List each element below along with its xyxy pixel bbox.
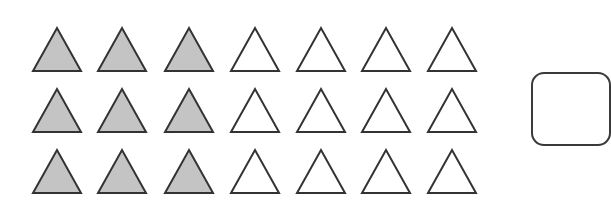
shaded-triangle bbox=[33, 150, 81, 193]
shaded-triangle bbox=[33, 28, 81, 71]
unshaded-triangle bbox=[297, 89, 345, 132]
shaded-triangle bbox=[165, 150, 213, 193]
shaded-triangle bbox=[98, 28, 146, 71]
unshaded-triangle bbox=[231, 150, 279, 193]
unshaded-triangle bbox=[428, 28, 476, 71]
unshaded-triangle bbox=[428, 150, 476, 193]
unshaded-triangle bbox=[362, 150, 410, 193]
shaded-triangle bbox=[165, 28, 213, 71]
answer-box[interactable] bbox=[531, 72, 611, 146]
unshaded-triangle bbox=[231, 89, 279, 132]
unshaded-triangle bbox=[362, 28, 410, 71]
shaded-triangle bbox=[33, 89, 81, 132]
shaded-triangle bbox=[165, 89, 213, 132]
unshaded-triangle bbox=[428, 89, 476, 132]
unshaded-triangle bbox=[297, 150, 345, 193]
unshaded-triangle bbox=[362, 89, 410, 132]
unshaded-triangle bbox=[297, 28, 345, 71]
unshaded-triangle bbox=[231, 28, 279, 71]
shaded-triangle bbox=[98, 89, 146, 132]
shaded-triangle bbox=[98, 150, 146, 193]
